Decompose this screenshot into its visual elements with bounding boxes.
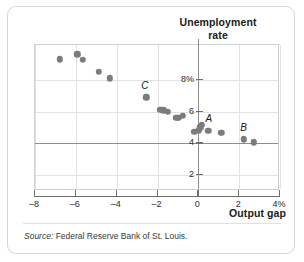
figure-panel: Unemployment rate CAB –8–6–4–2024%8%642 … — [7, 6, 295, 254]
x-axis-tick — [197, 190, 198, 197]
y-gridline — [35, 112, 278, 113]
source-note: Source: Federal Reserve Bank of St. Loui… — [24, 231, 187, 241]
plot-area: CAB — [34, 44, 279, 190]
zero-axis-line — [198, 39, 199, 189]
point-annotation-b: B — [240, 122, 247, 133]
x-gridline — [117, 45, 118, 189]
x-gridline — [35, 45, 36, 189]
y-axis-tick — [196, 79, 203, 80]
data-point — [205, 128, 211, 134]
x-axis-tick — [238, 190, 239, 197]
chart-x-axis-title: Output gap — [186, 207, 286, 219]
y-axis-tick-label: 8% — [166, 74, 194, 84]
y-axis-title-line2: rate — [158, 29, 278, 42]
x-axis-tick-label: –4 — [111, 199, 121, 209]
data-point — [80, 57, 86, 63]
y-axis-tick — [196, 111, 203, 112]
data-point — [95, 68, 101, 74]
source-label: Source: — [24, 231, 53, 241]
x-axis-tick-label: –6 — [70, 199, 80, 209]
y-axis-label-wrap: 4 — [166, 142, 194, 152]
data-point — [199, 121, 205, 127]
y-axis-label-wrap: 8% — [166, 79, 194, 89]
x-axis-tick — [34, 190, 35, 197]
y-axis-label-wrap: 6 — [166, 111, 194, 121]
x-axis-tick-label: –2 — [151, 199, 161, 209]
data-point — [251, 139, 257, 145]
x-gridline — [280, 45, 281, 189]
y-axis-title-line1: Unemployment — [158, 16, 278, 29]
y-gridline — [35, 143, 278, 144]
x-gridline — [158, 45, 159, 189]
point-annotation-a: A — [206, 112, 213, 123]
point-annotation-c: C — [141, 80, 148, 91]
x-axis-tick-label: –8 — [29, 199, 39, 209]
data-point — [56, 56, 62, 62]
data-point — [241, 136, 247, 142]
x-axis-tick — [116, 190, 117, 197]
data-point — [143, 94, 149, 100]
data-point — [218, 129, 224, 135]
y-axis-tick-label: 4 — [166, 137, 194, 147]
y-axis-tick-label: 6 — [166, 106, 194, 116]
y-gridline — [35, 80, 278, 81]
y-gridline — [35, 175, 278, 176]
x-axis-tick — [157, 190, 158, 197]
source-divider — [23, 223, 281, 224]
y-axis-tick-label: 2 — [166, 169, 194, 179]
source-value: Federal Reserve Bank of St. Louis. — [53, 231, 187, 241]
chart-y-axis-title: Unemployment rate — [158, 16, 278, 41]
y-axis-tick — [196, 174, 203, 175]
y-axis-tick — [196, 142, 203, 143]
x-gridline — [76, 45, 77, 189]
x-axis-tick — [279, 190, 280, 197]
x-gridline — [239, 45, 240, 189]
x-axis-tick — [75, 190, 76, 197]
y-axis-label-wrap: 2 — [166, 174, 194, 184]
